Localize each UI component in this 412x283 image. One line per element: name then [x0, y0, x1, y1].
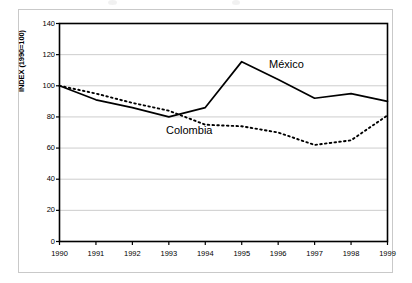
- y-tick-label-100: 100: [30, 82, 55, 90]
- x-tick-label-1991: 1991: [80, 250, 112, 258]
- chart-figure: 140120100806040200 199019911992199319941…: [0, 0, 412, 283]
- x-tick-label-1999: 1999: [372, 250, 404, 258]
- x-tick-label-1990: 1990: [44, 250, 76, 258]
- gridlines-group: [60, 55, 388, 211]
- x-tick-label-1994: 1994: [189, 250, 221, 258]
- series-group: [60, 62, 388, 145]
- x-tick-label-1998: 1998: [335, 250, 367, 258]
- x-tick-label-1995: 1995: [226, 250, 258, 258]
- x-tick-label-1992: 1992: [116, 250, 148, 258]
- y-tick-label-80: 80: [30, 113, 55, 121]
- series-line-mxico: [60, 62, 388, 117]
- x-tick-label-1996: 1996: [262, 250, 294, 258]
- axis-ticks-group: [56, 24, 388, 246]
- plot-border-rect: [60, 24, 388, 242]
- chart-plot-area: [0, 0, 412, 283]
- y-tick-label-140: 140: [30, 20, 55, 28]
- series-label-colombia: Colombia: [166, 124, 212, 136]
- y-tick-label-40: 40: [30, 175, 55, 183]
- series-label-mexico: México: [269, 58, 304, 70]
- y-tick-label-20: 20: [30, 206, 55, 214]
- y-axis-title: INDEX (1990=100): [17, 0, 26, 92]
- y-tick-label-60: 60: [30, 144, 55, 152]
- x-tick-label-1993: 1993: [153, 250, 185, 258]
- y-tick-label-0: 0: [30, 238, 55, 246]
- y-tick-label-120: 120: [30, 51, 55, 59]
- x-tick-label-1997: 1997: [299, 250, 331, 258]
